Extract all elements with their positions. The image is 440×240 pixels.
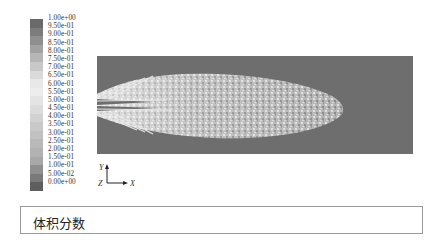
contour-plot [97, 56, 413, 154]
colorbar-swatch [30, 36, 43, 45]
colorbar-swatch [30, 28, 43, 37]
colorbar-swatch [30, 174, 43, 183]
colorbar-swatch [30, 88, 43, 97]
colorbar-swatch [30, 53, 43, 62]
colorbar-label: 8.50e-01 [48, 39, 108, 47]
jet-spray-contour [97, 56, 413, 154]
colorbar-swatch [30, 114, 43, 123]
colorbar-swatch [30, 165, 43, 174]
z-axis-label: Z [98, 179, 103, 188]
colorbar-swatch [30, 182, 43, 191]
x-axis-label: X [129, 179, 136, 188]
colorbar-swatch [30, 139, 43, 148]
colorbar-label: 9.00e-01 [48, 30, 108, 38]
colorbar-swatch [30, 131, 43, 140]
colorbar-label: 9.50e-01 [48, 22, 108, 30]
colorbar-swatch [30, 105, 43, 114]
colorbar-swatch [30, 96, 43, 105]
caption-box: 体积分数 [20, 206, 423, 234]
caption-text: 体积分数 [33, 213, 85, 232]
colorbar [30, 19, 43, 191]
colorbar-label: 8.00e-01 [48, 47, 108, 55]
colorbar-swatch [30, 148, 43, 157]
y-axis-label: Y [99, 163, 105, 172]
coordinate-axes: Y Z X [97, 161, 147, 191]
colorbar-swatch [30, 62, 43, 71]
colorbar-swatch [30, 19, 43, 28]
colorbar-swatch [30, 45, 43, 54]
colorbar-swatch [30, 79, 43, 88]
colorbar-swatch [30, 71, 43, 80]
colorbar-swatch [30, 157, 43, 166]
colorbar-swatch [30, 122, 43, 131]
colorbar-label: 1.00e+00 [48, 14, 108, 22]
